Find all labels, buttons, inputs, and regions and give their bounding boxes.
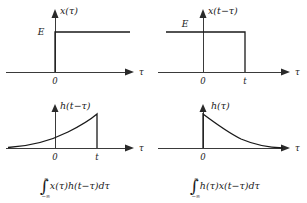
y-axis-arrowhead	[52, 9, 59, 18]
tick-label-origin-top-left: 0	[52, 76, 58, 86]
function-label-top-right: x(t−τ)	[208, 5, 238, 16]
integrand-right: h(τ)x(t−τ)dτ	[200, 180, 260, 191]
function-label-bottom-left: h(t−τ)	[60, 100, 91, 111]
plot-svg-top-left: x(τ) E 0 τ	[0, 0, 150, 98]
plot-svg-top-right: x(t−τ) E 0 t τ	[153, 0, 307, 98]
x-axis-arrowhead	[125, 145, 134, 152]
convolution-formula-right: ∫∞−∞h(τ)x(t−τ)dτ	[190, 180, 260, 194]
tick-label-origin-top-right: 0	[200, 76, 206, 86]
signal-curve-step	[55, 32, 130, 72]
plot-panel-bottom-right: h(τ) 0 τ	[153, 98, 307, 170]
axis-label-bottom-right: τ	[295, 143, 300, 153]
y-axis-arrowhead	[200, 9, 207, 18]
convolution-formula-left: ∫∞−∞x(τ)h(t−τ)dτ	[40, 180, 110, 194]
integrand-left: x(τ)h(t−τ)dτ	[50, 180, 110, 191]
function-label-bottom-right: h(τ)	[211, 100, 230, 111]
tick-label-t-top-right: t	[243, 76, 247, 86]
plot-svg-bottom-right: h(τ) 0 τ	[153, 98, 307, 170]
integral-upper-limit-right: ∞	[194, 177, 198, 181]
amplitude-label-top-right: E	[181, 19, 189, 29]
convolution-figure: x(τ) E 0 τ x(t−τ) E 0 t τ	[0, 0, 307, 203]
axis-label-bottom-left: τ	[139, 143, 144, 153]
axis-label-top-left: τ	[139, 67, 144, 77]
y-axis-arrowhead	[52, 104, 59, 112]
signal-curve-decaying-exponential	[203, 114, 283, 148]
integral-upper-limit-left: ∞	[44, 177, 48, 181]
integral-lower-limit-right: −∞	[192, 194, 201, 198]
signal-curve-rising-exponential	[8, 114, 97, 148]
axis-label-top-right: τ	[295, 67, 300, 77]
integral-symbol-left: ∫∞−∞	[40, 180, 49, 194]
plot-svg-bottom-left: h(t−τ) 0 t τ	[0, 98, 150, 170]
plot-panel-top-left: x(τ) E 0 τ	[0, 0, 150, 98]
integral-lower-limit-left: −∞	[42, 194, 51, 198]
function-label-top-left: x(τ)	[60, 5, 78, 16]
x-axis-arrowhead	[125, 69, 134, 76]
plot-panel-bottom-left: h(t−τ) 0 t τ	[0, 98, 150, 170]
tick-label-origin-bottom-left: 0	[52, 152, 58, 162]
amplitude-label-top-left: E	[37, 27, 45, 37]
tick-label-t-bottom-left: t	[95, 152, 99, 162]
y-axis-arrowhead	[200, 104, 207, 112]
tick-label-origin-bottom-right: 0	[200, 152, 206, 162]
integral-symbol-right: ∫∞−∞	[190, 180, 199, 194]
plot-panel-top-right: x(t−τ) E 0 t τ	[153, 0, 307, 98]
x-axis-arrowhead	[281, 69, 290, 76]
signal-curve-pulse	[166, 32, 245, 72]
